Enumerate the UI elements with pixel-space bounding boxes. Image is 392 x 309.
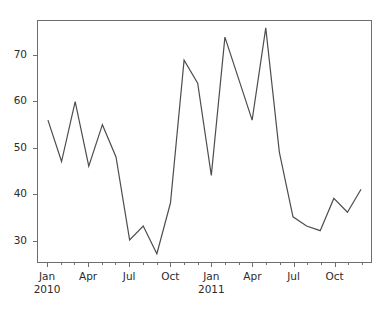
x-tick-minor	[307, 263, 308, 265]
x-tick-minor	[102, 263, 103, 265]
x-tick-minor	[348, 263, 349, 265]
y-tick-label: 40	[1, 188, 27, 199]
x-tick-minor	[157, 263, 158, 265]
x-tick-minor	[239, 263, 240, 265]
x-tick-label: Jan	[27, 271, 67, 282]
x-tick-minor	[225, 263, 226, 265]
x-tick-minor	[61, 263, 62, 265]
x-tick-year-label: 2011	[191, 284, 231, 295]
x-tick-label: Jul	[274, 271, 314, 282]
x-tick-minor	[74, 263, 75, 265]
x-tick-label: Jul	[109, 271, 149, 282]
x-tick-minor	[184, 263, 185, 265]
x-tick-year-label: 2010	[27, 284, 67, 295]
x-tick-major	[294, 263, 295, 267]
x-tick-major	[47, 263, 48, 267]
plot-area	[37, 20, 372, 263]
x-tick-minor	[321, 263, 322, 265]
x-tick-major	[211, 263, 212, 267]
x-tick-minor	[143, 263, 144, 265]
x-tick-major	[88, 263, 89, 267]
x-tick-minor	[362, 263, 363, 265]
x-tick-major	[335, 263, 336, 267]
chart-figure: 3040506070 Jan2010AprJulOctJan2011AprJul…	[0, 0, 392, 309]
x-tick-minor	[280, 263, 281, 265]
x-tick-minor	[266, 263, 267, 265]
data-line	[48, 28, 361, 254]
y-tick-label: 30	[1, 235, 27, 246]
x-tick-label: Jan	[191, 271, 231, 282]
x-tick-major	[252, 263, 253, 267]
x-tick-label: Apr	[68, 271, 108, 282]
x-tick-label: Oct	[150, 271, 190, 282]
line-series-svg	[38, 21, 371, 262]
x-tick-minor	[198, 263, 199, 265]
x-tick-major	[170, 263, 171, 267]
x-tick-label: Apr	[232, 271, 272, 282]
x-tick-major	[129, 263, 130, 267]
y-tick-label: 60	[1, 95, 27, 106]
x-tick-label: Oct	[315, 271, 355, 282]
x-tick-minor	[115, 263, 116, 265]
y-tick-label: 70	[1, 49, 27, 60]
y-tick-label: 50	[1, 142, 27, 153]
